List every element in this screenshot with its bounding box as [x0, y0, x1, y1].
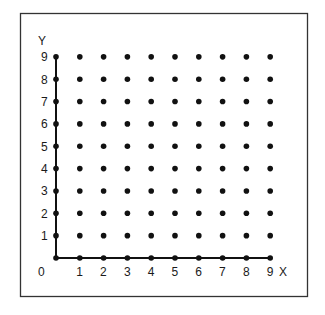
lattice-point: [220, 54, 226, 60]
lattice-point: [267, 233, 273, 239]
lattice-point: [148, 76, 154, 82]
frame: [21, 14, 308, 297]
y-tick-label: 4: [41, 162, 48, 176]
lattice-point: [244, 121, 250, 127]
lattice-point: [267, 54, 273, 60]
lattice-point: [77, 188, 83, 194]
lattice-point: [244, 233, 250, 239]
lattice-point: [244, 255, 250, 261]
lattice-point: [196, 143, 202, 149]
lattice-point: [148, 255, 154, 261]
lattice-point: [220, 121, 226, 127]
lattice-point: [53, 121, 59, 127]
lattice-point: [125, 54, 131, 60]
lattice-point: [125, 99, 131, 105]
lattice-point: [196, 76, 202, 82]
lattice-point: [172, 121, 178, 127]
y-tick-label: 9: [41, 50, 48, 64]
lattice-point: [101, 188, 107, 194]
lattice-point: [196, 188, 202, 194]
y-tick-label: 8: [41, 73, 48, 87]
y-tick-label: 3: [41, 184, 48, 198]
lattice-point: [267, 255, 273, 261]
lattice-point: [125, 255, 131, 261]
lattice-point: [148, 188, 154, 194]
lattice-point: [101, 166, 107, 172]
lattice-point: [172, 255, 178, 261]
lattice-point: [172, 211, 178, 217]
lattice-point: [267, 121, 273, 127]
y-tick-label: 6: [41, 117, 48, 131]
lattice-point: [220, 211, 226, 217]
y-tick-label: 5: [41, 140, 48, 154]
lattice-point: [125, 121, 131, 127]
lattice-point: [101, 54, 107, 60]
lattice-point: [244, 143, 250, 149]
x-tick-label: 5: [172, 265, 179, 279]
lattice-point: [77, 255, 83, 261]
lattice-point: [77, 99, 83, 105]
lattice-point: [53, 143, 59, 149]
lattice-point: [220, 76, 226, 82]
lattice-point: [220, 188, 226, 194]
lattice-point: [267, 188, 273, 194]
lattice-point: [101, 233, 107, 239]
lattice-point: [172, 76, 178, 82]
lattice-point: [196, 233, 202, 239]
x-tick-label: 3: [124, 265, 131, 279]
lattice-point: [172, 188, 178, 194]
x-tick-label: 4: [148, 265, 155, 279]
lattice-point: [77, 166, 83, 172]
origin-label: 0: [38, 265, 45, 279]
coordinate-grid-diagram: Y X 0 123456789123456789: [0, 0, 325, 315]
lattice-point: [172, 99, 178, 105]
lattice-point: [267, 143, 273, 149]
lattice-point: [172, 143, 178, 149]
lattice-point: [101, 143, 107, 149]
lattice-point: [220, 143, 226, 149]
lattice-point: [267, 166, 273, 172]
x-tick-label: 7: [219, 265, 226, 279]
lattice-point: [172, 233, 178, 239]
lattice-point: [220, 99, 226, 105]
lattice-point: [196, 166, 202, 172]
lattice-point: [196, 99, 202, 105]
lattice-point: [148, 143, 154, 149]
lattice-point: [101, 99, 107, 105]
x-tick-label: 6: [195, 265, 202, 279]
lattice-point: [125, 188, 131, 194]
lattice-point: [148, 121, 154, 127]
lattice-point: [101, 211, 107, 217]
lattice-point: [244, 99, 250, 105]
y-axis-label: Y: [38, 34, 46, 48]
lattice-point: [101, 255, 107, 261]
lattice-point: [53, 166, 59, 172]
lattice-point: [53, 233, 59, 239]
x-tick-label: 1: [76, 265, 83, 279]
x-tick-label: 8: [243, 265, 250, 279]
lattice-point: [125, 233, 131, 239]
lattice-point: [77, 143, 83, 149]
lattice-point: [244, 188, 250, 194]
lattice-point: [53, 99, 59, 105]
lattice-point: [53, 188, 59, 194]
lattice-point: [53, 211, 59, 217]
lattice-point: [53, 255, 59, 261]
lattice-point: [244, 54, 250, 60]
lattice-point: [196, 54, 202, 60]
lattice-point: [267, 99, 273, 105]
lattice-point: [196, 121, 202, 127]
lattice-point: [101, 76, 107, 82]
lattice-point: [148, 54, 154, 60]
lattice-point: [148, 99, 154, 105]
lattice-point: [267, 211, 273, 217]
lattice-point: [77, 76, 83, 82]
lattice-point: [148, 166, 154, 172]
lattice-point: [148, 211, 154, 217]
lattice-point: [172, 54, 178, 60]
lattice-point: [125, 76, 131, 82]
lattice-point: [125, 143, 131, 149]
y-tick-label: 2: [41, 207, 48, 221]
lattice-point: [244, 211, 250, 217]
lattice-point: [267, 76, 273, 82]
